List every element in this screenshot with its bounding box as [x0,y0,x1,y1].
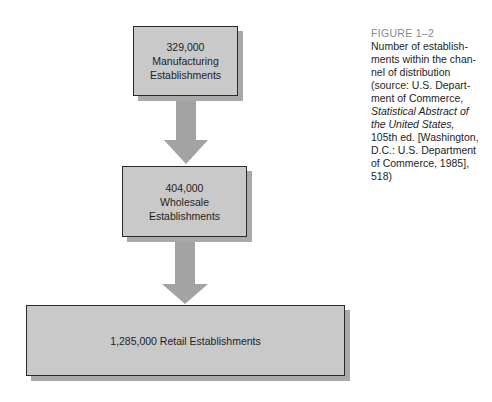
caption-line: D.C.: U.S. Department [371,144,489,157]
manufacturing-sublabel: Establishments [150,68,221,82]
caption-line: ment of Commerce, [371,92,489,105]
figure-caption: FIGURE 1–2 Number of establish- ments wi… [371,27,489,183]
caption-italic-line: Statistical Abstract of [371,105,489,118]
caption-line: 105th ed. [Washington, [371,131,489,144]
caption-italic-line: the United States, [371,118,489,131]
caption-line: Number of establish- [371,40,489,53]
figure-label: FIGURE 1–2 [371,27,489,40]
arrow-down-icon [160,98,212,166]
wholesale-box: 404,000 Wholesale Establishments [122,166,247,237]
caption-line: ments within the chan- [371,53,489,66]
caption-line: 518) [371,170,489,183]
caption-line: of Commerce, 1985], [371,157,489,170]
wholesale-count: 404,000 [149,181,220,195]
wholesale-label: Wholesale [149,195,220,209]
arrow-down-icon [159,240,211,306]
manufacturing-box: 329,000 Manufacturing Establishments [133,26,238,96]
caption-line: (source: U.S. Depart- [371,79,489,92]
caption-line: nel of distribution [371,66,489,79]
retail-label: 1,285,000 Retail Establishments [110,334,261,348]
manufacturing-label: Manufacturing [150,54,221,68]
wholesale-sublabel: Establishments [149,209,220,223]
retail-box: 1,285,000 Retail Establishments [26,305,345,376]
manufacturing-count: 329,000 [150,40,221,54]
